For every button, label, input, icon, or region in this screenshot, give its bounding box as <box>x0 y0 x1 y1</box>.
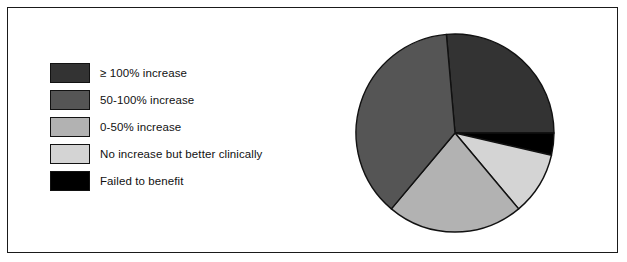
legend-label-ge-100-increase: ≥ 100% increase <box>100 62 187 84</box>
pie-chart <box>348 26 562 240</box>
legend-swatch-failed-to-benefit <box>50 171 90 191</box>
legend-swatch-no-increase-better-clinically <box>50 144 90 164</box>
legend-item: Failed to benefit <box>50 170 325 197</box>
legend-label-50-100-increase: 50-100% increase <box>100 89 194 111</box>
legend-label-no-increase-better-clinically: No increase but better clinically <box>100 143 262 165</box>
legend-swatch-50-100-increase <box>50 90 90 110</box>
legend-item: 50-100% increase <box>50 89 325 116</box>
legend-label-0-50-increase: 0-50% increase <box>100 116 181 138</box>
legend-label-failed-to-benefit: Failed to benefit <box>100 170 184 192</box>
legend-item: ≥ 100% increase <box>50 62 325 89</box>
pie-slice <box>446 34 554 133</box>
legend-item: No increase but better clinically <box>50 143 325 170</box>
legend-swatch-ge-100-increase <box>50 63 90 83</box>
chart-legend: ≥ 100% increase 50-100% increase 0-50% i… <box>50 62 325 197</box>
pie-chart-svg <box>348 26 562 240</box>
figure-container: ≥ 100% increase 50-100% increase 0-50% i… <box>0 0 627 262</box>
legend-swatch-0-50-increase <box>50 117 90 137</box>
pie-slice-group <box>356 34 554 232</box>
legend-item: 0-50% increase <box>50 116 325 143</box>
